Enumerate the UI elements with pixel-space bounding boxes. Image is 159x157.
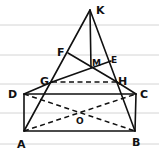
- label-O: O: [76, 116, 84, 126]
- label-E: E: [111, 55, 117, 65]
- label-M: M: [92, 58, 101, 68]
- label-B: B: [132, 136, 140, 149]
- label-A: A: [17, 138, 26, 151]
- label-K: K: [96, 4, 105, 17]
- label-H: H: [118, 75, 127, 88]
- point-labels: K F M E G H D C O A B: [8, 4, 148, 151]
- segment-KM: [90, 10, 91, 68]
- pyramid-diagram: K F M E G H D C O A B: [0, 0, 159, 157]
- label-F: F: [57, 46, 65, 59]
- edge-CB: [135, 94, 136, 131]
- label-D: D: [8, 88, 17, 101]
- label-G: G: [40, 75, 49, 88]
- label-C: C: [140, 88, 148, 101]
